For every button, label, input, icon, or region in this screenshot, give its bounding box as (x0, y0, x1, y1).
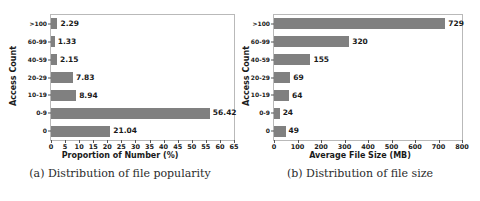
x-tick-label: 55 (201, 144, 210, 151)
bar (51, 72, 73, 83)
bar-value-label: 320 (352, 38, 368, 46)
y-tick-label: 0 (266, 128, 270, 134)
bar-row: 0-956.42 (51, 108, 237, 119)
y-tick-label: >100 (252, 21, 270, 27)
x-tick-label: 5 (63, 144, 68, 151)
x-tick-label: 30 (131, 144, 140, 151)
bar (51, 36, 55, 47)
bar-value-label: 56.42 (213, 109, 237, 117)
bar-value-label: 2.29 (60, 20, 79, 28)
y-tick-mark (48, 95, 51, 96)
x-tick-label: 700 (432, 144, 446, 151)
bar (274, 54, 310, 65)
bar-row: 10-1964 (274, 90, 302, 101)
x-axis-label-b: Average File Size (MB) (240, 152, 480, 160)
x-tick-label: 300 (338, 144, 352, 151)
y-tick-mark (48, 59, 51, 60)
bar-row: 0-924 (274, 108, 293, 119)
y-tick-mark (271, 113, 274, 114)
plot-area-b: >10072960-9932040-5915520-296910-19640-9… (273, 14, 463, 141)
y-tick-mark (271, 77, 274, 78)
bar-value-label: 729 (448, 20, 464, 28)
y-axis-label-b: Access Count (243, 46, 251, 106)
y-tick-mark (48, 41, 51, 42)
chart-panel-b: Access Count >10072960-9932040-5915520-2… (240, 0, 480, 201)
y-axis-label-a: Access Count (10, 46, 18, 106)
y-tick-label: 10-19 (28, 92, 47, 98)
bar-row: 60-99320 (274, 36, 368, 47)
bar-value-label: 24 (283, 109, 293, 117)
bar-row: >100729 (274, 18, 464, 29)
x-axis-label-a: Proportion of Number (%) (0, 152, 240, 160)
x-tick-label: 600 (408, 144, 422, 151)
y-tick-label: 0-9 (36, 110, 47, 116)
x-tick-label: 40 (159, 144, 168, 151)
bar (274, 90, 289, 101)
y-tick-mark (48, 113, 51, 114)
y-tick-mark (48, 77, 51, 78)
bar-value-label: 49 (289, 127, 299, 135)
y-tick-label: 40-59 (251, 57, 270, 63)
bar (51, 54, 57, 65)
bar-row: 021.04 (51, 126, 137, 137)
bar (274, 18, 445, 29)
y-tick-label: 60-99 (28, 39, 47, 45)
bar-value-label: 7.83 (76, 74, 95, 82)
y-tick-label: 10-19 (251, 92, 270, 98)
bar-value-label: 2.15 (60, 56, 79, 64)
bar-row: 20-2969 (274, 72, 304, 83)
y-tick-mark (48, 23, 51, 24)
y-tick-label: 20-29 (251, 75, 270, 81)
bar (51, 90, 76, 101)
bar (51, 18, 57, 29)
x-tick-label: 0 (272, 144, 277, 151)
x-tick-label: 25 (117, 144, 126, 151)
bar-value-label: 21.04 (113, 127, 137, 135)
x-tick-label: 65 (229, 144, 238, 151)
bar-row: 10-198.94 (51, 90, 98, 101)
x-tick-label: 50 (187, 144, 196, 151)
x-tick-label: 15 (89, 144, 98, 151)
bar-row: >1002.29 (51, 18, 79, 29)
bar (274, 36, 349, 47)
caption-a: (a) Distribution of file popularity (0, 168, 240, 179)
bar-row: 60-991.33 (51, 36, 76, 47)
x-tick-label: 10 (75, 144, 84, 151)
bar-value-label: 8.94 (79, 92, 98, 100)
y-tick-label: 0-9 (259, 110, 270, 116)
y-tick-label: 20-29 (28, 75, 47, 81)
y-tick-label: 60-99 (251, 39, 270, 45)
bar (51, 108, 210, 119)
bar-value-label: 155 (313, 56, 329, 64)
y-tick-mark (271, 59, 274, 60)
y-tick-label: >100 (29, 21, 47, 27)
x-tick-label: 60 (215, 144, 224, 151)
x-tick-label: 45 (173, 144, 182, 151)
y-tick-mark (271, 23, 274, 24)
figure: Access Count >1002.2960-991.3340-592.152… (0, 0, 480, 201)
y-tick-mark (271, 41, 274, 42)
x-tick-label: 0 (49, 144, 54, 151)
y-tick-mark (271, 95, 274, 96)
x-tick-label: 20 (103, 144, 112, 151)
x-tick-label: 200 (314, 144, 328, 151)
caption-b: (b) Distribution of file size (240, 168, 480, 179)
plot-area-a: >1002.2960-991.3340-592.1520-297.8310-19… (50, 14, 235, 141)
y-tick-mark (271, 131, 274, 132)
y-tick-label: 40-59 (28, 57, 47, 63)
bar-row: 20-297.83 (51, 72, 95, 83)
bar-row: 40-59155 (274, 54, 329, 65)
y-tick-label: 0 (43, 128, 47, 134)
bar-value-label: 69 (293, 74, 303, 82)
bar-value-label: 1.33 (58, 38, 77, 46)
bar-value-label: 64 (292, 92, 302, 100)
bar (274, 126, 286, 137)
x-tick-label: 100 (291, 144, 305, 151)
x-tick-label: 400 (361, 144, 375, 151)
bar-row: 40-592.15 (51, 54, 79, 65)
x-tick-label: 35 (145, 144, 154, 151)
chart-panel-a: Access Count >1002.2960-991.3340-592.152… (0, 0, 240, 201)
bar (274, 108, 280, 119)
x-tick-label: 800 (455, 144, 469, 151)
bar (51, 126, 110, 137)
